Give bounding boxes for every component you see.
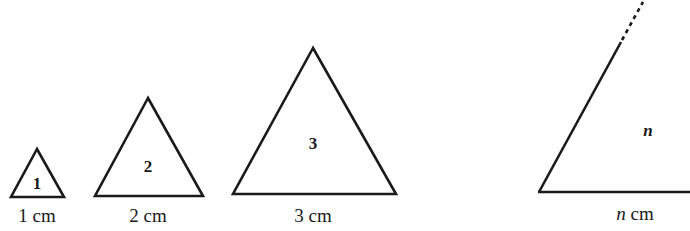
triangle-n-side-label: n cm (616, 203, 654, 224)
triangle-n-dashed-continuation (622, 2, 643, 40)
triangle-n-label: n (643, 121, 652, 140)
triangle-3-shape (233, 48, 396, 194)
triangle-2-label: 2 (144, 157, 153, 176)
triangle-n-left-side (539, 42, 621, 192)
triangle-2: 2 2 cm (95, 98, 203, 226)
triangle-2-side-label: 2 cm (129, 205, 167, 226)
triangle-n: n n cm (538, 2, 690, 224)
triangle-3: 3 3 cm (233, 48, 396, 226)
triangle-1-label: 1 (33, 174, 42, 193)
triangle-3-side-label: 3 cm (294, 205, 332, 226)
triangle-sequence-diagram: 1 1 cm 2 2 cm 3 3 cm n n cm (0, 0, 690, 231)
triangle-3-label: 3 (309, 134, 318, 153)
triangle-1-side-label: 1 cm (18, 205, 56, 226)
triangle-2-shape (95, 98, 203, 196)
triangle-1: 1 1 cm (11, 149, 64, 226)
